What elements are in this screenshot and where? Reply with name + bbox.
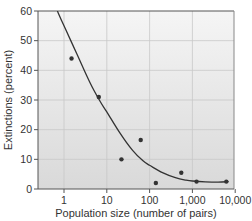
data-point <box>194 179 198 183</box>
y-tick-label: 20 <box>20 123 32 135</box>
x-axis-ticks: 1101001,00010,000 <box>61 189 251 206</box>
x-tick-label: 100 <box>141 194 159 206</box>
data-point <box>139 138 143 142</box>
data-point <box>154 181 158 185</box>
x-tick-label: 10 <box>101 194 113 206</box>
x-tick-label: 1 <box>61 194 67 206</box>
y-axis-label: Extinctions (percent) <box>2 50 14 150</box>
x-tick-label: 10,000 <box>219 194 251 206</box>
data-point <box>119 157 123 161</box>
y-tick-label: 0 <box>26 183 32 195</box>
data-point <box>179 170 183 174</box>
x-axis-label: Population size (number of pairs) <box>55 207 216 219</box>
y-tick-label: 30 <box>20 94 32 106</box>
data-point <box>69 56 73 60</box>
y-tick-label: 40 <box>20 64 32 76</box>
x-tick-label: 1,000 <box>179 194 205 206</box>
y-tick-label: 60 <box>20 5 32 17</box>
y-axis-ticks: 0102030405060 <box>20 5 38 195</box>
y-tick-label: 10 <box>20 153 32 165</box>
data-point <box>224 179 228 183</box>
data-point <box>97 95 101 99</box>
extinction-chart: 0102030405060 1101001,00010,000 Populati… <box>0 0 252 221</box>
y-tick-label: 50 <box>20 34 32 46</box>
